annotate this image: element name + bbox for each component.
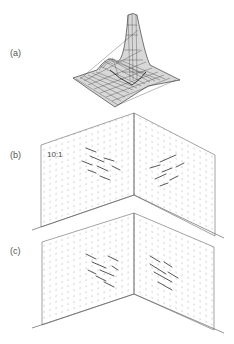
- panel-c-planes: [32, 213, 224, 333]
- figure-canvas: [0, 0, 234, 344]
- surface-plot: [73, 14, 180, 108]
